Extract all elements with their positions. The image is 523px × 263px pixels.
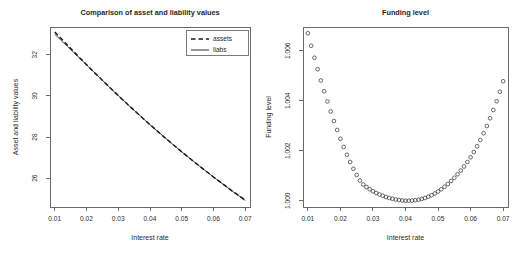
data-point (319, 79, 323, 83)
y-axis-tick-label: 28 (31, 133, 38, 141)
plot-frame (303, 27, 508, 207)
chart-title: Funding level (382, 8, 429, 17)
data-point (322, 89, 326, 93)
data-point (309, 44, 313, 48)
y-axis-tick-label: 30 (31, 92, 38, 100)
legend-label-liabs: liabs (213, 46, 227, 53)
data-point (501, 79, 505, 83)
data-point (485, 124, 489, 128)
data-point (475, 144, 479, 148)
x-axis-tick-label: 0.01 (301, 215, 314, 222)
y-axis-tick-label: 32 (31, 51, 38, 59)
funding-level-chart: Funding level0.010.020.030.040.050.060.0… (262, 0, 523, 263)
panel-funding-level: Funding level0.010.020.030.040.050.060.0… (262, 0, 523, 263)
data-point (332, 119, 336, 123)
data-point (472, 150, 476, 154)
asset-liability-chart: Comparison of asset and liability values… (0, 0, 262, 263)
data-point (439, 187, 443, 191)
panel-asset-liability: Comparison of asset and liability values… (0, 0, 262, 263)
series-assets (55, 32, 245, 200)
data-point (335, 128, 339, 132)
data-point (495, 99, 499, 103)
x-axis-tick-label: 0.05 (432, 215, 445, 222)
data-point (443, 185, 447, 189)
data-point (326, 100, 330, 104)
data-point (465, 160, 469, 164)
x-axis-title: Interest rate (387, 234, 424, 241)
x-axis-tick-label: 0.04 (399, 215, 412, 222)
data-point (313, 56, 317, 60)
legend-label-assets: assets (213, 35, 233, 42)
y-axis-title: Asset and liability values (12, 78, 20, 155)
data-point (452, 176, 456, 180)
x-axis-title: Interest rate (131, 234, 168, 241)
data-point (358, 179, 362, 183)
y-axis-tick-label: 1.002 (284, 142, 291, 159)
x-axis-tick-label: 0.06 (207, 215, 220, 222)
data-point (469, 155, 473, 159)
data-point (482, 131, 486, 135)
y-axis-tick-label: 1.006 (284, 42, 291, 59)
data-point (478, 138, 482, 142)
data-point (459, 169, 463, 173)
figure-canvas: Comparison of asset and liability values… (0, 0, 523, 263)
x-axis-tick-label: 0.01 (48, 215, 61, 222)
y-axis-tick-label: 26 (31, 174, 38, 182)
y-axis-title: Funding level (265, 96, 273, 138)
chart-title: Comparison of asset and liability values (80, 8, 219, 17)
x-axis-tick-label: 0.03 (112, 215, 125, 222)
data-point (342, 145, 346, 149)
x-axis-tick-label: 0.07 (497, 215, 510, 222)
data-point (339, 137, 343, 141)
data-point (306, 31, 310, 35)
data-point (348, 160, 352, 164)
data-point (498, 90, 502, 94)
data-point (456, 172, 460, 176)
x-axis-tick-label: 0.04 (144, 215, 157, 222)
x-axis-tick-label: 0.02 (334, 215, 347, 222)
series-liabs (55, 34, 245, 200)
x-axis-tick-label: 0.02 (80, 215, 93, 222)
data-point (329, 110, 333, 114)
data-point (492, 108, 496, 112)
data-point (345, 153, 349, 157)
data-point (488, 116, 492, 120)
y-axis-tick-label: 1.000 (284, 192, 291, 209)
x-axis-tick-label: 0.05 (175, 215, 188, 222)
data-point (316, 67, 320, 71)
data-point (449, 179, 453, 183)
x-axis-tick-label: 0.03 (367, 215, 380, 222)
data-point (446, 182, 450, 186)
data-point (361, 183, 365, 187)
y-axis-tick-label: 1.004 (284, 92, 291, 109)
data-point (355, 173, 359, 177)
x-axis-tick-label: 0.06 (464, 215, 477, 222)
x-axis-tick-label: 0.07 (239, 215, 252, 222)
data-point (352, 167, 356, 171)
data-point (462, 165, 466, 169)
